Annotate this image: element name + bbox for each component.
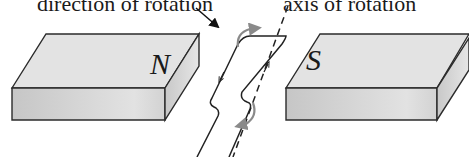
south-magnet-front-face (286, 88, 437, 120)
north-pole-label: N (149, 47, 172, 80)
south-magnet: S (286, 34, 469, 120)
rotation-arrow-top-icon (238, 28, 258, 47)
north-magnet: N (12, 34, 199, 120)
axis-of-rotation-label: axis of rotation (283, 0, 416, 16)
generator-diagram: direction of rotation axis of rotation N… (0, 0, 469, 157)
north-magnet-front-face (12, 88, 165, 120)
direction-of-rotation-label: direction of rotation (37, 0, 213, 16)
axis-of-rotation-line (233, 6, 288, 157)
coil-loop (197, 36, 286, 157)
rotation-arrow-bottom-icon (238, 103, 254, 126)
south-pole-label: S (306, 43, 321, 76)
